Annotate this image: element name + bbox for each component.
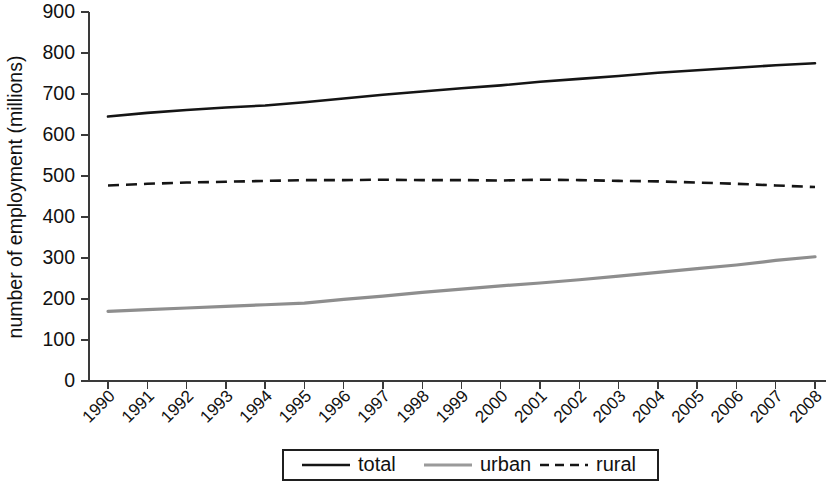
x-tick-label: 1995 xyxy=(275,386,315,426)
x-tick-label: 1998 xyxy=(393,386,433,426)
x-tick-label: 1999 xyxy=(432,386,472,426)
series-line-rural xyxy=(108,180,815,187)
x-tick-label: 1997 xyxy=(354,386,394,426)
x-tick-label: 1996 xyxy=(314,386,354,426)
legend-label-total: total xyxy=(358,453,396,475)
y-tick-label: 0 xyxy=(64,369,75,391)
x-tick-label: 2001 xyxy=(511,386,551,426)
y-tick-label: 500 xyxy=(42,164,75,186)
y-tick-label: 100 xyxy=(42,328,75,350)
series-line-urban xyxy=(108,257,815,312)
y-axis-title-group: number of employment (millions) xyxy=(4,56,26,339)
x-tick-label: 1990 xyxy=(79,386,119,426)
x-axis-ticks: 1990199119921993199419951996199719981999… xyxy=(79,381,826,427)
data-series-group xyxy=(108,63,815,311)
y-tick-label: 600 xyxy=(42,123,75,145)
y-tick-label: 200 xyxy=(42,287,75,309)
x-tick-label: 2004 xyxy=(629,386,669,426)
x-tick-label: 2003 xyxy=(589,386,629,426)
line-chart: number of employment (millions) 01002003… xyxy=(0,0,834,485)
legend-label-urban: urban xyxy=(480,453,531,475)
legend-label-rural: rural xyxy=(596,453,636,475)
series-line-total xyxy=(108,63,815,116)
y-tick-label: 900 xyxy=(42,0,75,22)
x-tick-label: 1992 xyxy=(157,386,197,426)
x-tick-label: 2002 xyxy=(550,386,590,426)
x-tick-label: 2000 xyxy=(471,386,511,426)
y-tick-label: 400 xyxy=(42,205,75,227)
x-tick-label: 2007 xyxy=(746,386,786,426)
x-tick-label: 1994 xyxy=(236,386,276,426)
x-tick-label: 1991 xyxy=(118,386,158,426)
y-tick-label: 300 xyxy=(42,246,75,268)
legend: total urban rural xyxy=(283,450,658,480)
chart-canvas: number of employment (millions) 01002003… xyxy=(0,0,834,485)
y-axis-title: number of employment (millions) xyxy=(4,56,26,339)
x-tick-label: 1993 xyxy=(196,386,236,426)
y-axis-ticks: 0100200300400500600700800900 xyxy=(42,0,89,391)
y-tick-label: 800 xyxy=(42,41,75,63)
x-tick-label: 2005 xyxy=(668,386,708,426)
y-tick-label: 700 xyxy=(42,82,75,104)
x-tick-label: 2006 xyxy=(707,386,747,426)
x-tick-label: 2008 xyxy=(786,386,826,426)
